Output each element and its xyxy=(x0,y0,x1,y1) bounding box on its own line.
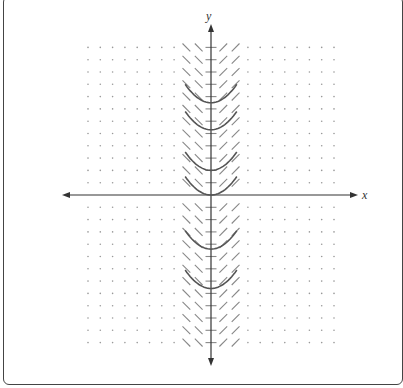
grid-dot xyxy=(173,280,175,282)
slope-segment xyxy=(195,216,203,224)
grid-dot xyxy=(321,317,323,319)
slope-segment xyxy=(219,253,227,261)
grid-dot xyxy=(112,243,114,245)
grid-dot xyxy=(87,133,89,135)
grid-dot xyxy=(136,96,138,98)
grid-dot xyxy=(247,47,249,49)
grid-dot xyxy=(321,170,323,172)
grid-dot xyxy=(136,108,138,110)
grid-dot xyxy=(173,59,175,61)
grid-dot xyxy=(100,256,102,258)
grid-dot xyxy=(161,84,163,86)
grid-dot xyxy=(112,182,114,184)
slope-segment xyxy=(195,80,203,88)
grid-dot xyxy=(112,96,114,98)
grid-dot xyxy=(333,342,335,344)
grid-dot xyxy=(333,145,335,147)
grid-dot xyxy=(321,256,323,258)
grid-dot xyxy=(333,219,335,221)
grid-dot xyxy=(173,330,175,332)
grid-dot xyxy=(161,280,163,282)
grid-dot xyxy=(87,305,89,307)
grid-dot xyxy=(333,84,335,86)
grid-dot xyxy=(333,133,335,135)
grid-dot xyxy=(309,219,311,221)
grid-dot xyxy=(124,243,126,245)
grid-dot xyxy=(259,96,261,98)
grid-dot xyxy=(173,96,175,98)
grid-dot xyxy=(112,120,114,122)
grid-dot xyxy=(309,243,311,245)
grid-dot xyxy=(321,145,323,147)
grid-dot xyxy=(272,219,274,221)
grid-dot xyxy=(112,330,114,332)
grid-dot xyxy=(309,182,311,184)
grid-dot xyxy=(161,59,163,61)
y-axis-up-arrow-icon xyxy=(208,24,214,32)
grid-dot xyxy=(321,108,323,110)
grid-dot xyxy=(259,120,261,122)
grid-dot xyxy=(259,243,261,245)
grid-dot xyxy=(321,305,323,307)
grid-dot xyxy=(149,280,151,282)
slope-segment xyxy=(183,117,191,125)
grid-dot xyxy=(149,317,151,319)
grid-dot xyxy=(247,280,249,282)
grid-dot xyxy=(124,231,126,233)
grid-dot xyxy=(247,59,249,61)
slope-segment xyxy=(219,302,227,310)
grid-dot xyxy=(173,342,175,344)
grid-dot xyxy=(112,84,114,86)
grid-dot xyxy=(272,330,274,332)
x-axis-left-arrow-icon xyxy=(62,192,70,198)
slope-segment xyxy=(183,93,191,101)
grid-dot xyxy=(149,342,151,344)
grid-dot xyxy=(100,219,102,221)
grid-dot xyxy=(309,207,311,209)
grid-dot xyxy=(112,305,114,307)
grid-dot xyxy=(284,84,286,86)
grid-dot xyxy=(272,59,274,61)
grid-dot xyxy=(124,207,126,209)
grid-dot xyxy=(100,207,102,209)
slope-segment xyxy=(183,302,191,310)
grid-dot xyxy=(161,268,163,270)
grid-dot xyxy=(112,256,114,258)
grid-dot xyxy=(259,47,261,49)
grid-dot xyxy=(321,293,323,295)
grid-dot xyxy=(136,133,138,135)
grid-dot xyxy=(296,317,298,319)
grid-dot xyxy=(321,133,323,135)
grid-dot xyxy=(149,268,151,270)
grid-dot xyxy=(87,293,89,295)
grid-dot xyxy=(247,330,249,332)
grid-dot xyxy=(124,145,126,147)
slope-segment xyxy=(195,105,203,113)
grid-dot xyxy=(247,243,249,245)
grid-dot xyxy=(100,293,102,295)
grid-dot xyxy=(333,268,335,270)
grid-dot xyxy=(124,317,126,319)
grid-dot xyxy=(296,182,298,184)
grid-dot xyxy=(124,59,126,61)
grid-dot xyxy=(296,84,298,86)
grid-dot xyxy=(284,71,286,73)
grid-dot xyxy=(87,268,89,270)
grid-dot xyxy=(321,207,323,209)
grid-dot xyxy=(100,59,102,61)
grid-dot xyxy=(272,157,274,159)
grid-dot xyxy=(173,47,175,49)
slope-segment xyxy=(219,80,227,88)
grid-dot xyxy=(284,330,286,332)
grid-dot xyxy=(321,47,323,49)
grid-dot xyxy=(149,256,151,258)
slope-segment xyxy=(183,68,191,76)
y-axis-label: y xyxy=(205,9,212,23)
grid-dot xyxy=(136,145,138,147)
slope-segment xyxy=(219,203,227,211)
grid-dot xyxy=(149,170,151,172)
grid-dot xyxy=(87,280,89,282)
grid-dot xyxy=(173,219,175,221)
grid-dot xyxy=(100,145,102,147)
grid-dot xyxy=(272,342,274,344)
